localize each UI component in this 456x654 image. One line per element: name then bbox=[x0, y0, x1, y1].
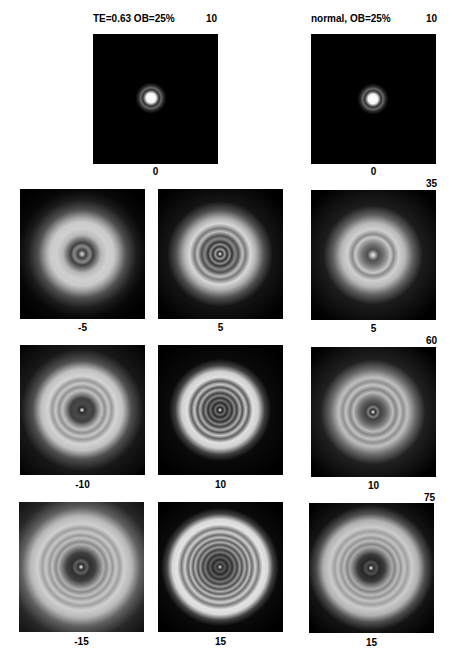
psf-panel-r4c2 bbox=[158, 502, 283, 632]
defocus-pattern-image bbox=[309, 503, 434, 633]
psf-panel-r4c3 bbox=[309, 503, 434, 633]
panel-label-r3c2: 10 bbox=[158, 479, 283, 491]
defocus-pattern-image bbox=[20, 189, 145, 319]
psf-panel-r2c3 bbox=[311, 190, 436, 320]
defocus-pattern-image bbox=[20, 345, 145, 475]
psf-panel-r3c1 bbox=[20, 345, 145, 475]
psf-panel-r1c1 bbox=[93, 34, 218, 164]
psf-panel-r1c3 bbox=[311, 34, 436, 164]
panel-label-r2c3: 5 bbox=[311, 323, 436, 335]
defocus-pattern-image bbox=[158, 345, 283, 475]
row-label-right-1: 10 bbox=[400, 13, 437, 25]
defocus-pattern-image bbox=[158, 189, 283, 319]
psf-panel-r2c1 bbox=[20, 189, 145, 319]
psf-panel-r2c2 bbox=[158, 189, 283, 319]
defocus-pattern-image bbox=[19, 502, 144, 632]
row-label-right-2: 35 bbox=[400, 178, 437, 190]
defocus-pattern-image bbox=[158, 502, 283, 632]
top-left-corner-label: 10 bbox=[180, 13, 217, 25]
panel-label-r3c3: 10 bbox=[311, 480, 436, 492]
panel-label-r4c3: 15 bbox=[309, 637, 434, 649]
panel-label-r4c2: 15 bbox=[158, 636, 283, 648]
row-label-right-3: 60 bbox=[400, 335, 437, 347]
panel-label-r1c1: 0 bbox=[93, 166, 218, 178]
right-column-title: normal, OB=25% bbox=[311, 13, 391, 25]
airy-pattern-image bbox=[93, 34, 218, 164]
psf-panel-r4c1 bbox=[19, 502, 144, 632]
left-column-title: TE=0.63 OB=25% bbox=[93, 13, 175, 25]
defocus-pattern-image bbox=[311, 347, 436, 477]
panel-label-r4c1: -15 bbox=[19, 636, 144, 648]
panel-label-r2c2: 5 bbox=[158, 322, 283, 334]
panel-label-r1c3: 0 bbox=[311, 166, 436, 178]
panel-label-r3c1: -10 bbox=[20, 479, 145, 491]
panel-label-r2c1: -5 bbox=[20, 322, 145, 334]
psf-panel-r3c3 bbox=[311, 347, 436, 477]
defocus-pattern-image bbox=[311, 190, 436, 320]
psf-panel-r3c2 bbox=[158, 345, 283, 475]
airy-pattern-image bbox=[311, 34, 436, 164]
